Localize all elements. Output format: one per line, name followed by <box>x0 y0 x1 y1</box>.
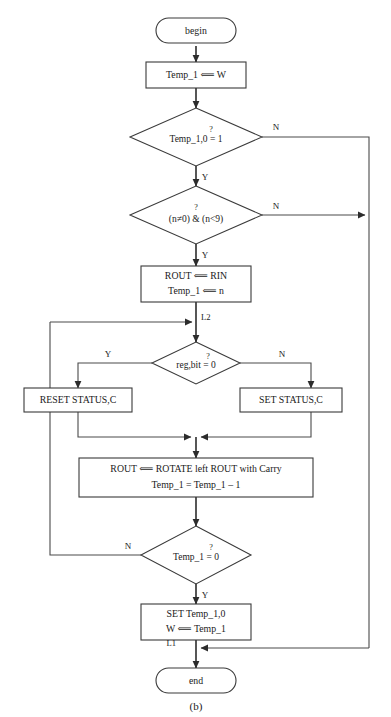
process-reset-status-label: RESET STATUS,C <box>40 394 116 405</box>
process-finish-line2: W ⟸ Temp_1 <box>166 623 226 634</box>
decision-range-question: ? <box>194 203 198 212</box>
edge-set-to-merge <box>201 412 311 437</box>
decision-temp-bit-label: Temp_1,0 = 1 <box>170 134 223 144</box>
edge-loop-done-no-to-l2 <box>50 322 141 555</box>
edge-regbit-no-to-set <box>240 363 311 388</box>
figure-caption: (b) <box>190 700 203 713</box>
decision-loop-done-question: ? <box>209 543 213 552</box>
junction-label-l1: L1 <box>166 638 176 648</box>
edge-label-regbit-yes: Y <box>105 349 112 359</box>
terminator-end-label: end <box>189 675 203 686</box>
edge-label-range-no: N <box>273 201 280 211</box>
junction-label-l2: L2 <box>201 312 211 322</box>
process-rotate-line1: ROUT ⟸ ROTATE left ROUT with Carry <box>110 463 281 474</box>
decision-temp-bit-question: ? <box>209 125 213 134</box>
edge-reset-to-merge <box>78 412 191 437</box>
edge-label-loop-done-no: N <box>125 541 132 551</box>
edge-regbit-yes-to-reset <box>78 363 152 388</box>
edge-label-regbit-no: N <box>279 349 286 359</box>
edge-label-range-yes: Y <box>202 250 209 260</box>
decision-range-label: (n≠0) & (n<9) <box>169 214 223 225</box>
terminator-begin-label: begin <box>185 25 207 36</box>
flowchart-svg: begin Temp_1 ⟸ W ? Temp_1,0 = 1 N Y ? (n… <box>0 0 391 717</box>
process-init-label: Temp_1 ⟸ W <box>166 69 227 80</box>
decision-loop-done-label: Temp_1 = 0 <box>173 552 219 562</box>
edge-label-temp-bit-no: N <box>273 122 280 132</box>
process-setup-line2: Temp_1 ⟸ n <box>168 285 224 296</box>
decision-regbit-label: reg,bit = 0 <box>176 360 216 370</box>
process-rotate-line2: Temp_1 = Temp_1 – 1 <box>152 479 241 490</box>
process-setup-line1: ROUT ⟸ RIN <box>165 270 227 281</box>
edge-label-loop-done-yes: Y <box>202 590 209 600</box>
flowchart-canvas: begin Temp_1 ⟸ W ? Temp_1,0 = 1 N Y ? (n… <box>0 0 391 717</box>
process-set-status-label: SET STATUS,C <box>259 394 323 405</box>
edge-label-temp-bit-yes: Y <box>202 172 209 182</box>
process-finish-line1: SET Temp_1,0 <box>167 608 226 619</box>
